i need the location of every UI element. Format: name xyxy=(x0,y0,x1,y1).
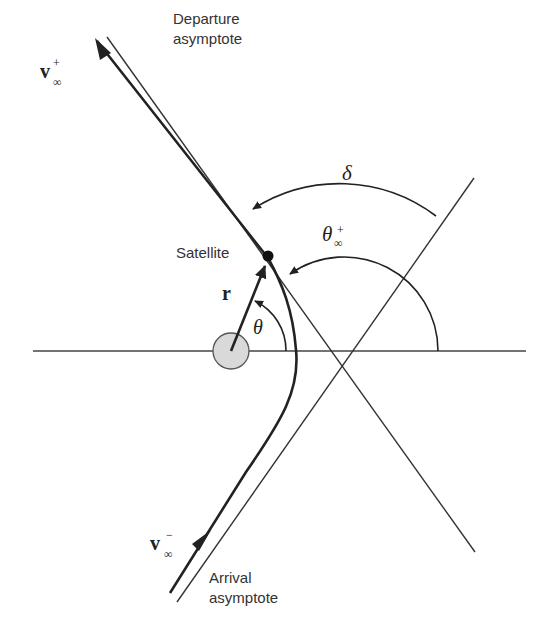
svg-text:+: + xyxy=(337,223,344,237)
v-minus-arrow-icon xyxy=(192,530,211,551)
departure-label: Departure xyxy=(173,10,240,27)
v-plus-label: v + ∞ xyxy=(40,56,62,89)
svg-text:∞: ∞ xyxy=(334,236,343,250)
svg-text:∞: ∞ xyxy=(164,547,173,561)
satellite xyxy=(263,251,274,262)
satellite-label: Satellite xyxy=(176,244,229,261)
theta-label: θ xyxy=(253,316,263,338)
svg-text:∞: ∞ xyxy=(53,75,62,89)
svg-text:v: v xyxy=(40,60,50,82)
svg-text:+: + xyxy=(53,56,60,70)
hyperbolic-trajectory xyxy=(97,41,297,593)
svg-text:θ: θ xyxy=(322,222,332,246)
hyperbolic-trajectory-diagram: Departure asymptote Arrival asymptote Sa… xyxy=(0,0,546,637)
theta-infinity-label: θ + ∞ xyxy=(322,222,344,250)
r-label: r xyxy=(222,282,231,304)
departure-label-2: asymptote xyxy=(173,30,242,47)
arrival-label: Arrival xyxy=(209,569,252,586)
delta-arc xyxy=(253,184,436,216)
delta-label: δ xyxy=(342,161,353,185)
theta-infinity-arc xyxy=(290,257,438,351)
radius-vector xyxy=(231,266,265,351)
svg-text:−: − xyxy=(166,528,173,542)
arrival-label-2: asymptote xyxy=(209,589,278,606)
svg-text:v: v xyxy=(150,532,160,554)
v-minus-label: v − ∞ xyxy=(150,528,173,561)
